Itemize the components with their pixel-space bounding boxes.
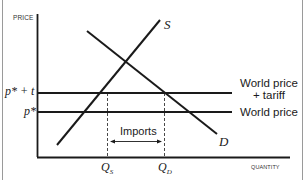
world-line-caption: World price xyxy=(236,106,302,118)
demand-curve xyxy=(87,31,217,134)
qs-label: QS xyxy=(101,160,113,176)
qd-letter: Q xyxy=(158,160,167,174)
tariff-caption-line-2: + tariff xyxy=(236,89,302,101)
tariff-price-label: p* + t xyxy=(5,84,34,99)
y-axis-label: PRICE xyxy=(13,14,33,21)
imports-arrow xyxy=(110,140,162,144)
qs-subscript: S xyxy=(110,168,114,176)
supply-label: S xyxy=(164,17,171,33)
x-axis-label: QUANTITY xyxy=(251,164,280,170)
tariff-caption-line-1: World price xyxy=(236,77,302,89)
imports-label: Imports xyxy=(120,125,157,137)
qd-label: QD xyxy=(158,160,172,176)
qd-subscript: D xyxy=(167,168,172,176)
demand-label: D xyxy=(219,134,228,150)
world-price-label: p* xyxy=(24,104,36,119)
tariff-line-caption: World price + tariff xyxy=(236,77,302,101)
qs-letter: Q xyxy=(101,160,110,174)
